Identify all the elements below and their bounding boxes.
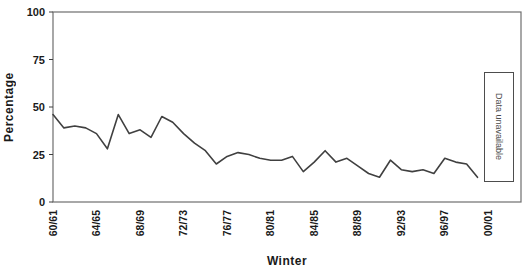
x-tick-label: 76/77 (221, 210, 233, 236)
y-tick-label: 75 (33, 54, 45, 66)
x-tick-label: 84/85 (308, 210, 320, 236)
y-tick-label: 100 (27, 6, 45, 18)
x-tick-label: 64/65 (90, 210, 102, 236)
data-unavailable-box: Data unavailable (484, 72, 514, 182)
x-tick-label: 92/93 (395, 210, 407, 236)
x-axis-tick-labels: 60/6164/6568/6972/7376/7780/8184/8588/89… (47, 210, 494, 236)
data-unavailable-label: Data unavailable (494, 93, 504, 160)
line-chart: 0255075100 60/6164/6568/6972/7376/7780/8… (0, 0, 525, 279)
x-axis-title: Winter (53, 254, 521, 268)
x-tick-label: 88/89 (351, 210, 363, 236)
x-tick-label: 00/01 (482, 210, 494, 236)
chart-canvas: 0255075100 60/6164/6568/6972/7376/7780/8… (0, 0, 525, 279)
y-tick-label: 25 (33, 149, 45, 161)
plot-area-frame (53, 12, 521, 202)
percentage-series-line (53, 115, 478, 178)
x-tick-label: 72/73 (177, 210, 189, 236)
x-tick-label: 60/61 (47, 210, 59, 236)
y-tick-label: 0 (39, 196, 45, 208)
x-tick-label: 80/81 (264, 210, 276, 236)
x-tick-label: 68/69 (134, 210, 146, 236)
y-tick-label: 50 (33, 101, 45, 113)
x-tick-label: 96/97 (438, 210, 450, 236)
y-axis-ticks: 0255075100 (27, 6, 53, 208)
y-axis-title: Percentage (0, 12, 18, 202)
